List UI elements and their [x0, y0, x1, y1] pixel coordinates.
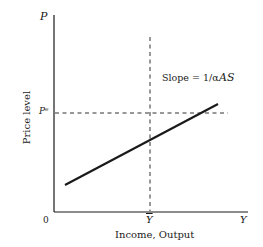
y-axis-symbol: P: [40, 10, 47, 23]
as-curve-label: AS: [219, 71, 234, 84]
chart-plot: [0, 0, 263, 247]
slope-annotation: Slope = 1/α: [162, 72, 219, 83]
x-axis-label: Income, Output: [115, 229, 194, 240]
as-curve: [65, 104, 218, 185]
y-axis-label: Price level: [21, 88, 32, 148]
origin-label: 0: [43, 215, 49, 225]
pe-label: Pᵉ: [39, 106, 49, 116]
x-axis-symbol: Y: [240, 214, 247, 225]
ybar-label: Y: [146, 214, 153, 225]
as-chart: P Pᵉ 0 Y Y Income, Output Price level Sl…: [0, 0, 263, 247]
